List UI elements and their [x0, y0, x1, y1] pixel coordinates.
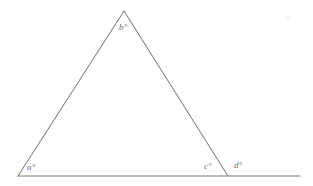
figure-background — [0, 0, 313, 186]
angle-label-d: d° — [234, 161, 243, 170]
scan-artifact-speck — [286, 16, 291, 19]
angle-label-b: b° — [119, 23, 128, 32]
angle-label-a: a° — [27, 163, 36, 172]
triangle-diagram — [0, 0, 313, 186]
angle-label-c: c° — [204, 162, 212, 171]
